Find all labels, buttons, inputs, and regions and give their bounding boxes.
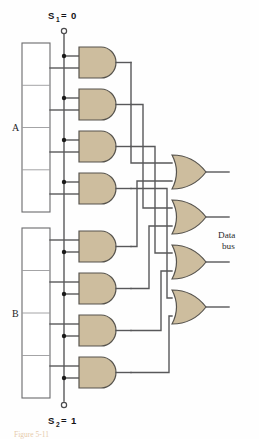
register-a[interactable] [22,43,50,212]
s1-label-name: S [48,10,54,21]
register-b[interactable] [22,228,50,398]
junction-dot-s1-3 [62,138,66,142]
and-gate-6[interactable] [79,273,131,304]
junction-dot-s1-4 [62,180,66,184]
s2-label-name: S [48,415,54,426]
and-gate-5-body [79,231,116,262]
figure-caption: Figure 5-11 [14,430,49,439]
route-and5-to-or1 [131,181,172,247]
register-b-label: B [12,308,19,319]
select-line-s2-group [61,402,66,407]
and-gate-1-body [79,47,116,78]
junction-dot-s1-1 [62,54,66,58]
s2-label-equals: = [61,415,67,426]
s1-label-equals: = [61,10,67,21]
and-gate-4[interactable] [79,173,131,204]
register-a-label: A [12,122,20,133]
s1-label-group: S 1 = 0 [48,10,76,23]
and-gate-6-body [79,273,116,304]
and-gate-8-body [79,357,116,388]
and-gate-4-body [79,173,116,204]
junction-dot-s2-3 [62,334,66,338]
s1-label-value: 0 [71,10,76,21]
route-and1-to-or1 [131,63,172,164]
junction-dot-s2-4 [62,376,66,380]
or-gate-4-body [172,290,206,324]
and-gate-8[interactable] [79,357,131,388]
and-gate-7[interactable] [79,315,131,346]
and-gate-3-body [79,131,116,162]
s2-terminal-circle[interactable] [61,402,66,407]
route-and7-to-or3 [131,271,172,331]
or-gate-1-body [172,155,206,189]
s2-label-group: S 2 = 1 [48,415,77,428]
s2-label-value: 1 [71,415,77,426]
or-gate-3[interactable] [172,245,229,279]
or-gate-4[interactable] [172,290,229,324]
data-bus-label-line1: Data [218,230,235,240]
circuit-diagram-svg: S 1 = 0 S 2 = 1 A B Data bus Figure 5-11 [0,0,259,439]
or-gate-1[interactable] [172,155,229,189]
and-gate-3[interactable] [79,131,131,162]
data-bus-label-line2: bus [222,241,235,251]
s1-label-subscript: 1 [56,16,60,23]
or-gate-2-body [172,200,206,234]
or-gate-3-body [172,245,206,279]
and-gate-1[interactable] [79,47,131,78]
and-gate-2-body [79,89,116,120]
and-gate-2[interactable] [79,89,131,120]
route-and8-to-or4 [131,316,172,373]
and-gate-5[interactable] [79,231,131,262]
s1-terminal-circle[interactable] [61,28,66,33]
junction-dot-s1-2 [62,96,66,100]
s2-label-subscript: 2 [56,421,60,428]
junction-dot-s2-2 [62,292,66,296]
junction-dot-s2-1 [62,250,66,254]
select-line-s1-group [61,28,66,401]
and-gate-7-body [79,315,116,346]
or-gate-2[interactable] [172,200,229,234]
figure-root: S 1 = 0 S 2 = 1 A B Data bus Figure 5-11 [0,0,259,439]
